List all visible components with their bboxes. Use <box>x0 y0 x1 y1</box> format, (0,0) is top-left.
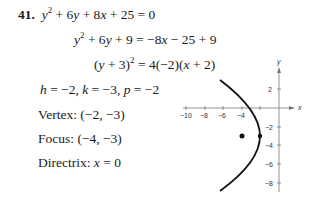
vertex-point <box>258 134 262 138</box>
x-tick-label: −8 <box>200 112 208 119</box>
parabola-graph: x y −10 −8 −6 −4 2 −2 −4 −6 −8 <box>0 0 310 200</box>
y-axis-label: y <box>276 58 281 66</box>
x-axis-label: x <box>297 104 302 111</box>
y-tick-label: 2 <box>268 86 272 93</box>
x-tick-label: −6 <box>218 112 226 119</box>
focus-point <box>240 134 245 139</box>
y-tick-label: −4 <box>265 142 273 149</box>
x-tick-label: −10 <box>180 112 192 119</box>
y-tick-label: −6 <box>265 161 273 168</box>
y-tick-label: −8 <box>265 180 273 187</box>
y-axis-arrow-icon <box>277 67 281 73</box>
x-tick-label: −4 <box>237 112 245 119</box>
x-axis-arrow-icon <box>289 106 295 110</box>
y-tick-label: −2 <box>265 124 273 131</box>
